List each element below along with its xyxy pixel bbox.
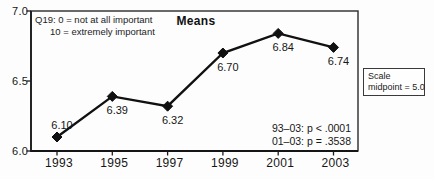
scale-midpoint-box: Scale midpoint = 5.0 [363,68,425,96]
chart-title: Means [158,14,234,28]
data-point-label: 6.32 [162,114,183,126]
scale-midpoint-line2: midpoint = 5.0 [368,82,420,93]
x-axis-label: 2003 [322,156,350,170]
x-axis-label: 2001 [266,156,294,170]
q19-scale-annotation: Q19: 0 = not at all important 10 = extre… [35,14,155,38]
q19-annotation-line1: Q19: 0 = not at all important [35,14,155,26]
q19-annotation-line2: 10 = extremely important [35,26,155,38]
data-point-label: 6.74 [328,55,349,67]
means-line-chart: 1993199519971999200120036.106.396.326.70… [0,0,434,179]
y-axis-label-6-5: 6.5 [0,74,28,88]
x-axis-label: 1995 [100,156,128,170]
x-axis-label: 1997 [156,156,184,170]
data-point-label: 6.70 [217,61,238,73]
data-point-label: 6.84 [272,41,293,53]
significance-annotation: 93–03: p < .0001 01–03: p = .3538 [272,122,351,148]
significance-line-93-03: 93–03: p < .0001 [272,122,351,135]
data-point-label: 6.39 [107,104,128,116]
y-axis-label-7-0: 7.0 [0,4,28,18]
data-point-label: 6.10 [51,119,72,131]
y-axis-label-6-0: 6.0 [0,144,28,158]
data-point-marker [329,42,339,52]
significance-line-01-03: 01–03: p = .3538 [272,135,351,148]
scale-midpoint-line1: Scale [368,71,420,82]
x-axis-label: 1993 [45,156,73,170]
x-axis-label: 1999 [211,156,239,170]
data-point-marker [273,28,283,38]
